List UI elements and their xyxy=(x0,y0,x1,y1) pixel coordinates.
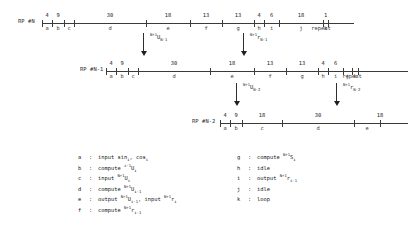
arrow-label-superscript: N+1 xyxy=(250,32,257,37)
legend-entry-description: compute N+1Ui-1 xyxy=(98,187,141,192)
legend-entry-key: d xyxy=(78,187,86,192)
axis-tick xyxy=(328,68,329,75)
axis-tick xyxy=(286,68,287,75)
arrow-label: N+1rN-1 xyxy=(250,35,267,40)
legend-entry-description: loop xyxy=(257,197,270,202)
legend-superscript: N+1 xyxy=(124,184,131,189)
diagram-canvas: RP #N4a9bc30d18e13f13g4h6i18j1krepeatRP … xyxy=(0,0,408,227)
legend-subscript: i xyxy=(128,178,130,183)
segment-key: d xyxy=(172,73,175,79)
legend-entry-key: f xyxy=(78,208,86,213)
segment-key: h xyxy=(321,73,324,79)
legend-separator: : xyxy=(89,197,92,202)
legend-subscript: i xyxy=(146,157,148,162)
segment-duration: 13 xyxy=(203,12,210,18)
legend-superscript: N+1 xyxy=(117,173,124,178)
segment-duration: 18 xyxy=(165,12,172,18)
axis-tick xyxy=(146,20,147,27)
arrow-label-subscript: N-1 xyxy=(260,37,267,42)
arrow-label-subscript: N-2 xyxy=(353,87,360,92)
segment-duration: 9 xyxy=(234,112,237,118)
segment-duration: 6 xyxy=(270,12,273,18)
arrow-shaft xyxy=(236,83,237,103)
segment-duration: 9 xyxy=(120,60,123,66)
segment-duration: 30 xyxy=(315,112,322,118)
repeat-label: repeat xyxy=(311,25,330,31)
segment-duration: 13 xyxy=(235,12,242,18)
arrow-head-icon xyxy=(234,101,240,106)
arrow-label-superscript: N+1 xyxy=(343,82,350,87)
segment-key: e xyxy=(166,25,169,31)
row-label: RP #N xyxy=(18,18,35,24)
segment-key: f xyxy=(204,25,207,31)
arrow-head-icon xyxy=(334,101,340,106)
segment-key: d xyxy=(108,25,111,31)
segment-key: i xyxy=(334,73,337,79)
legend-text: compute xyxy=(98,186,124,192)
legend-separator: : xyxy=(89,155,92,160)
legend-text: compute xyxy=(98,207,124,213)
legend-entry-key: a xyxy=(78,155,86,160)
legend-text: idle xyxy=(257,186,270,192)
axis-tick xyxy=(52,20,53,27)
legend-subscript: i xyxy=(293,157,295,162)
legend-entry-key: k xyxy=(237,197,245,202)
legend-subscript: i-1 xyxy=(134,210,141,215)
segment-key: a xyxy=(45,25,48,31)
legend-text: input xyxy=(98,175,117,181)
segment-duration: 4 xyxy=(109,60,112,66)
legend-separator: : xyxy=(89,166,92,171)
legend-text: input sin xyxy=(98,154,127,160)
segment-duration: 30 xyxy=(107,12,114,18)
segment-key: i xyxy=(270,25,273,31)
arrow-label: N+1UN-2 xyxy=(243,85,260,90)
legend-superscript: N+1 xyxy=(124,205,131,210)
legend-entry-description: output N+1Ui-1, input N+1ri xyxy=(98,197,177,202)
segment-duration: 6 xyxy=(334,60,337,66)
legend-subscript: i-1 xyxy=(290,178,297,183)
arrow-label-superscript: N+1 xyxy=(150,32,157,37)
legend-text: compute xyxy=(257,154,283,160)
legend-entry-description: compute i-1Ui xyxy=(98,166,137,171)
segment-key: g xyxy=(300,73,303,79)
axis-tick xyxy=(64,20,65,27)
legend-entry-description: idle xyxy=(257,187,270,192)
segment-duration: 4 xyxy=(223,112,226,118)
segment-duration: 18 xyxy=(377,112,384,118)
segment-duration: 13 xyxy=(299,60,306,66)
arrow-shaft xyxy=(243,33,244,53)
legend-entry-description: idle xyxy=(257,166,270,171)
arrow-shaft xyxy=(336,83,337,103)
segment-key: e xyxy=(365,125,368,131)
legend-separator: : xyxy=(248,187,251,192)
axis-tick xyxy=(354,120,355,127)
axis-tick xyxy=(254,20,255,27)
segment-duration: 18 xyxy=(298,12,305,18)
axis-tick xyxy=(128,68,129,75)
arrow-label: N+1rN-2 xyxy=(343,85,360,90)
repeat-label: repeat xyxy=(342,73,361,79)
axis-tick xyxy=(116,68,117,75)
segment-key: h xyxy=(257,25,260,31)
segment-duration: 4 xyxy=(321,60,324,66)
segment-duration: 13 xyxy=(267,60,274,66)
segment-key: b xyxy=(56,25,59,31)
legend-separator: : xyxy=(248,155,251,160)
axis-tick xyxy=(282,120,283,127)
arrow-head-icon xyxy=(141,51,147,56)
legend-text: , cos xyxy=(130,154,146,160)
axis-tick xyxy=(318,68,319,75)
segment-duration: 30 xyxy=(171,60,178,66)
legend-text: compute xyxy=(98,165,124,171)
segment-key: c xyxy=(260,125,263,131)
segment-duration: 9 xyxy=(56,12,59,18)
legend-subscript: i xyxy=(134,168,136,173)
legend-entry-description: input sini, cosi xyxy=(98,155,148,160)
segment-key: a xyxy=(109,73,112,79)
axis-tick xyxy=(230,120,231,127)
legend-superscript: i-1 xyxy=(124,163,131,168)
legend-text: output xyxy=(257,175,280,181)
axis-tick xyxy=(264,20,265,27)
segment-duration: 4 xyxy=(257,12,260,18)
legend-entry-key: h xyxy=(237,166,245,171)
